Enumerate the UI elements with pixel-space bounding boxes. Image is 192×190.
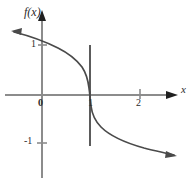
function-graph-figure: f(x) x 0 1 2 1 -1 xyxy=(0,0,192,190)
x-axis-label: x xyxy=(181,84,186,95)
curve-right-arrowhead xyxy=(165,151,177,158)
plot-canvas xyxy=(0,0,192,190)
x-tick-label-2: 2 xyxy=(136,98,141,108)
function-curve xyxy=(14,32,174,155)
y-tick-label-minus-1: -1 xyxy=(24,136,32,146)
x-tick-label-1: 1 xyxy=(88,98,93,108)
y-axis-label: f(x) xyxy=(24,6,41,18)
y-tick-label-1: 1 xyxy=(31,39,36,49)
curve-left-arrowhead xyxy=(11,28,22,35)
x-axis-arrowhead xyxy=(166,91,178,99)
origin-tick-label: 0 xyxy=(38,98,43,108)
